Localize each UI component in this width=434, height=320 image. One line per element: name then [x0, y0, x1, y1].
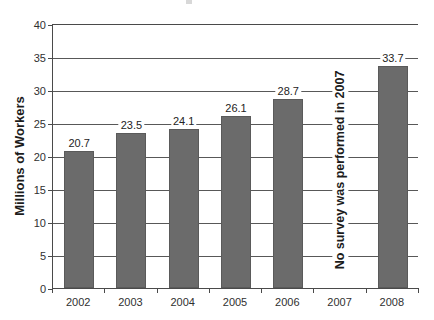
bar-2006: [273, 99, 303, 288]
value-label-2004: 24.1: [171, 115, 196, 127]
bar-2003: [116, 133, 146, 288]
y-tick-label: 5: [40, 250, 46, 262]
x-tick-mark: [418, 288, 419, 293]
chart-annotation: No survey was performed in 2007: [327, 55, 355, 285]
y-tick-label: 15: [34, 184, 46, 196]
plot-area: 051015202530354020.723.524.126.128.733.7…: [52, 24, 418, 288]
bar-2004: [169, 129, 199, 288]
x-tick-label-2005: 2005: [223, 296, 247, 308]
y-tick-mark: [48, 58, 53, 59]
y-tick-label: 25: [34, 118, 46, 130]
value-label-2006: 28.7: [276, 85, 301, 97]
y-tick-mark: [48, 124, 53, 125]
y-axis-title: Millions of Workers: [6, 24, 32, 288]
y-tick-label: 35: [34, 52, 46, 64]
value-label-2008: 33.7: [380, 52, 405, 64]
value-label-2005: 26.1: [223, 102, 248, 114]
x-axis-line: [52, 288, 419, 289]
y-tick-label: 20: [34, 151, 46, 163]
y-tick-mark: [48, 157, 53, 158]
clipped-title-artifact: [186, 0, 192, 4]
x-tick-label-2007: 2007: [327, 296, 351, 308]
y-tick-mark: [48, 91, 53, 92]
y-tick-label: 10: [34, 217, 46, 229]
x-tick-mark: [366, 288, 367, 293]
x-tick-mark: [157, 288, 158, 293]
x-tick-mark: [313, 288, 314, 293]
x-tick-label-2008: 2008: [380, 296, 404, 308]
y-tick-label: 0: [40, 283, 46, 295]
bar-chart: Millions of Workers 051015202530354020.7…: [0, 0, 434, 320]
y-tick-label: 40: [34, 19, 46, 31]
gridline: [53, 91, 418, 92]
chart-annotation-label: No survey was performed in 2007: [333, 69, 349, 272]
x-tick-mark: [209, 288, 210, 293]
x-tick-label-2002: 2002: [66, 296, 90, 308]
x-tick-label-2003: 2003: [118, 296, 142, 308]
y-tick-label: 30: [34, 85, 46, 97]
x-tick-label-2006: 2006: [275, 296, 299, 308]
y-tick-mark: [48, 190, 53, 191]
y-axis-title-label: Millions of Workers: [12, 96, 27, 216]
gridline: [53, 58, 418, 59]
value-label-2003: 23.5: [119, 119, 144, 131]
x-tick-mark: [104, 288, 105, 293]
x-tick-mark: [261, 288, 262, 293]
bar-2005: [221, 116, 251, 288]
bar-2008: [378, 66, 408, 288]
x-tick-mark: [52, 288, 53, 293]
x-tick-label-2004: 2004: [170, 296, 194, 308]
y-tick-mark: [48, 25, 53, 26]
y-tick-mark: [48, 256, 53, 257]
value-label-2002: 20.7: [66, 137, 91, 149]
bar-2002: [64, 151, 94, 288]
y-tick-mark: [48, 223, 53, 224]
